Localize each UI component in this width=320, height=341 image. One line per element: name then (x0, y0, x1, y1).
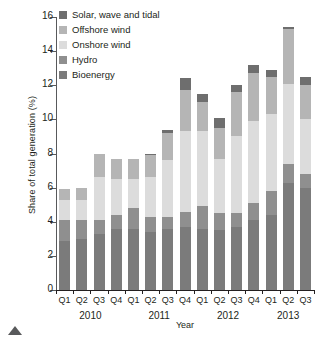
bar-segment (248, 73, 259, 121)
bar-segment (94, 154, 105, 178)
bar-segment (111, 215, 122, 229)
bar-column (266, 70, 277, 290)
bar-segment (59, 220, 70, 240)
bar-segment (180, 227, 191, 290)
bar-segment (162, 133, 173, 160)
bar-segment (283, 84, 294, 164)
legend-swatch-icon (59, 71, 67, 79)
bar-segment (300, 85, 311, 119)
bar-segment (180, 131, 191, 211)
y-tick-label: 16 (29, 10, 53, 21)
legend-item: Solar, wave and tidal (59, 7, 160, 22)
x-quarter-label: Q2 (142, 295, 160, 305)
bar-segment (111, 229, 122, 290)
y-tick-label: 2 (29, 249, 53, 260)
bar-segment (231, 227, 242, 290)
x-quarter-label: Q4 (176, 295, 194, 305)
legend-item: Bioenergy (59, 67, 160, 82)
bar-segment (162, 217, 173, 229)
y-tick-label: 12 (29, 78, 53, 89)
bar-column (248, 65, 259, 290)
legend-label: Onshore wind (72, 40, 131, 50)
bar-segment (197, 94, 208, 103)
bar-segment (128, 229, 139, 290)
bar-segment (231, 85, 242, 92)
bar-segment (214, 213, 225, 230)
legend-item: Hydro (59, 52, 160, 67)
y-tick-label: 10 (29, 112, 53, 123)
bar-segment (266, 77, 277, 115)
x-tick-mark (125, 290, 126, 294)
bar-segment (300, 188, 311, 290)
bar-segment (266, 114, 277, 191)
bar-segment (94, 220, 105, 234)
x-quarter-label: Q1 (56, 295, 74, 305)
renewables-share-stacked-bar-chart: Share of total generation (%) 1614121086… (0, 0, 320, 341)
y-tick-label: 8 (29, 147, 53, 158)
bar-segment (283, 164, 294, 183)
bar-segment (128, 208, 139, 228)
x-quarter-label: Q3 (159, 295, 177, 305)
x-quarter-label: Q2 (279, 295, 297, 305)
bar-segment (145, 232, 156, 290)
x-quarter-label: Q1 (193, 295, 211, 305)
bar-segment (145, 177, 156, 216)
bar-column (162, 130, 173, 290)
bar-segment (266, 215, 277, 290)
x-tick-mark (297, 290, 298, 294)
x-axis-ticks-and-labels: Q1Q2Q3Q4Q1Q2Q3Q4Q1Q2Q3Q4Q1Q2Q32010201120… (56, 290, 314, 296)
bar-column (231, 85, 242, 290)
bar-column (145, 154, 156, 290)
bar-segment (76, 200, 87, 220)
bar-segment (59, 189, 70, 199)
legend-label: Offshore wind (72, 25, 130, 35)
bar-column (76, 188, 87, 290)
y-tick-label: 6 (29, 181, 53, 192)
bar-segment (76, 220, 87, 239)
bar-column (214, 118, 225, 290)
legend-swatch-icon (59, 11, 67, 19)
bar-segment (59, 200, 70, 220)
bar-segment (197, 102, 208, 131)
x-tick-mark (176, 290, 177, 294)
bar-column (283, 27, 294, 290)
x-quarter-label: Q1 (124, 295, 142, 305)
bar-segment (248, 220, 259, 290)
x-quarter-label: Q2 (73, 295, 91, 305)
x-tick-mark (56, 290, 57, 294)
bar-segment (283, 183, 294, 290)
bar-segment (231, 213, 242, 227)
x-quarter-label: Q3 (228, 295, 246, 305)
bar-segment (197, 206, 208, 228)
legend-item: Offshore wind (59, 22, 160, 37)
bar-segment (197, 131, 208, 206)
x-quarter-label: Q1 (262, 295, 280, 305)
y-tick-label: 14 (29, 44, 53, 55)
legend-swatch-icon (59, 26, 67, 34)
x-quarter-label: Q2 (210, 295, 228, 305)
bar-segment (266, 191, 277, 215)
x-tick-mark (211, 290, 212, 294)
x-quarter-label: Q3 (90, 295, 108, 305)
bar-segment (197, 229, 208, 290)
bar-segment (162, 160, 173, 216)
y-tick-label: 0 (29, 283, 53, 294)
legend-item: Onshore wind (59, 37, 160, 52)
bar-segment (248, 203, 259, 220)
x-tick-mark (262, 290, 263, 294)
bar-segment (111, 159, 122, 179)
x-quarter-label: Q4 (107, 295, 125, 305)
x-tick-mark (108, 290, 109, 294)
legend-label: Solar, wave and tidal (72, 10, 160, 20)
bar-column (94, 154, 105, 290)
bar-column (197, 94, 208, 290)
bar-segment (128, 159, 139, 179)
bar-segment (180, 212, 191, 227)
bar-column (128, 159, 139, 290)
bar-segment (231, 136, 242, 213)
bar-segment (111, 179, 122, 215)
y-tick-label: 4 (29, 215, 53, 226)
x-quarter-label: Q3 (296, 295, 314, 305)
bar-segment (214, 230, 225, 290)
bar-column (180, 78, 191, 290)
